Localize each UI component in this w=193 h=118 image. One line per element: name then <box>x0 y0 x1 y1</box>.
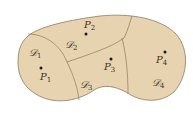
point-dot-p2 <box>85 33 88 36</box>
point-dot-p1 <box>40 67 43 70</box>
point-dot-p4 <box>164 51 167 54</box>
partition-diagram: 𝒟1 𝒟2 𝒟3 𝒟4 P1 P2 P3 P4 <box>0 0 193 118</box>
